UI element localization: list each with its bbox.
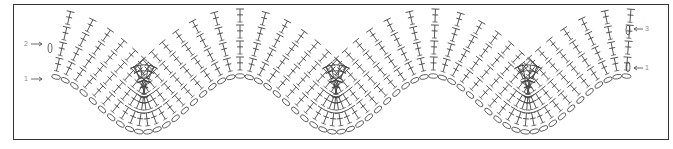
row-label-left-1: 1 — [24, 75, 28, 82]
row-label-right-1: 1 — [645, 64, 649, 71]
crochet-chart — [0, 0, 673, 149]
row-label-left-2: 2 — [24, 40, 28, 47]
row-label-right-3: 3 — [645, 25, 649, 32]
